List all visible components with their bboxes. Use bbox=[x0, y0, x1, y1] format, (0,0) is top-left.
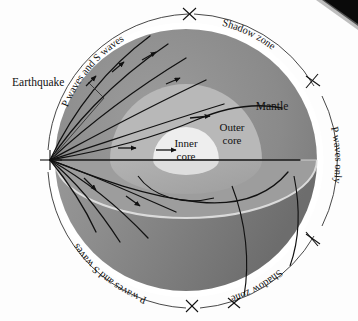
label-inner-core-line1: Inner bbox=[174, 137, 198, 149]
tick-mark bbox=[306, 232, 318, 246]
label-p-waves-only: P waves only bbox=[329, 126, 344, 185]
label-p-waves-only-text: P waves only bbox=[329, 126, 344, 185]
figure-canvas: P waves and S waves Shadow zone P waves … bbox=[0, 0, 358, 321]
label-outer-core-line1: Outer bbox=[219, 121, 244, 133]
label-earthquake: Earthquake bbox=[12, 76, 64, 89]
tick-mark bbox=[306, 234, 320, 244]
earth-cross-section-diagram: P waves and S waves Shadow zone P waves … bbox=[0, 0, 358, 321]
label-mantle: Mantle bbox=[256, 100, 289, 112]
label-inner-core-line2: core bbox=[177, 150, 196, 162]
label-outer-core-line2: core bbox=[223, 134, 242, 146]
